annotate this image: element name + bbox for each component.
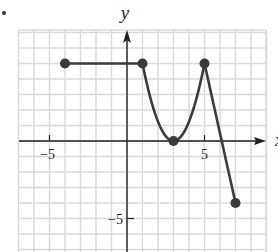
svg-text:5: 5 <box>201 147 208 162</box>
function-graph: yx−55−5 <box>0 0 278 252</box>
endpoint-dots <box>60 59 241 209</box>
graph-curve <box>65 64 236 204</box>
svg-text:y: y <box>119 2 130 23</box>
svg-text:−5: −5 <box>108 212 123 227</box>
svg-text:−5: −5 <box>40 147 55 162</box>
axis-labels: yx−55−5 <box>40 2 278 227</box>
svg-text:x: x <box>274 129 278 150</box>
